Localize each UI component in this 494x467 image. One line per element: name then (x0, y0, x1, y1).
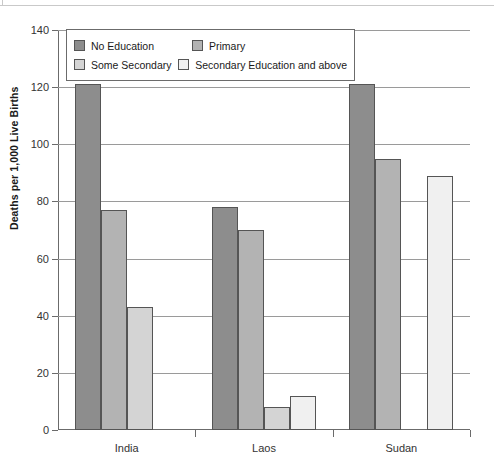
bar (238, 230, 264, 430)
bar-group (195, 30, 332, 430)
y-axis-tick-label: 140 (31, 24, 49, 36)
legend-row-1: No Education Primary (74, 36, 347, 55)
bar (101, 210, 127, 430)
bar (127, 307, 153, 430)
plot-area: 020406080100120140 IndiaLaosSudan (58, 30, 470, 430)
bar-group (333, 30, 470, 430)
legend-swatch-icon-secondary-and-above (178, 59, 189, 70)
y-axis-tick-label: 60 (37, 253, 49, 265)
x-axis-category-label: India (115, 442, 139, 454)
legend-label-no-education: No Education (91, 40, 154, 52)
legend-row-2: Some Secondary Secondary Education and a… (74, 55, 347, 74)
bar (264, 407, 290, 430)
x-axis-tick (470, 430, 471, 437)
bar (349, 84, 375, 430)
y-axis-tick-label: 120 (31, 81, 49, 93)
legend-swatch-icon-some-secondary (74, 59, 85, 70)
legend-swatch-icon-primary (192, 40, 203, 51)
bar (290, 396, 316, 430)
y-axis-tick-label: 0 (43, 424, 49, 436)
x-axis-category-label: Laos (252, 442, 276, 454)
legend-item-primary: Primary (192, 40, 245, 52)
legend-label-secondary-and-above: Secondary Education and above (195, 59, 347, 71)
scan-artifact-line (0, 5, 494, 6)
bars-layer (58, 30, 470, 430)
legend-swatch-icon-no-education (74, 40, 85, 51)
y-axis-tick-label: 40 (37, 310, 49, 322)
bar (427, 176, 453, 430)
bar-group (58, 30, 195, 430)
y-axis-title: Deaths per 1,000 Live Births (8, 87, 20, 230)
legend-label-some-secondary: Some Secondary (91, 59, 172, 71)
legend-label-primary: Primary (209, 40, 245, 52)
legend-item-no-education: No Education (74, 40, 192, 52)
legend-item-secondary-and-above: Secondary Education and above (178, 59, 347, 71)
x-axis-category-label: Sudan (385, 442, 417, 454)
bar (212, 207, 238, 430)
y-axis-tick (52, 430, 58, 431)
legend-item-some-secondary: Some Secondary (74, 59, 178, 71)
y-axis-tick-label: 100 (31, 138, 49, 150)
y-axis-tick-label: 80 (37, 195, 49, 207)
bar (75, 84, 101, 430)
scan-artifact-tick (2, 0, 3, 6)
bar (375, 159, 401, 430)
y-axis-tick-label: 20 (37, 367, 49, 379)
x-axis-tick (195, 430, 196, 437)
chart-legend: No Education Primary Some Secondary Seco… (66, 29, 355, 81)
x-axis-tick (333, 430, 334, 437)
bar-chart-figure: Deaths per 1,000 Live Births 02040608010… (0, 0, 494, 467)
